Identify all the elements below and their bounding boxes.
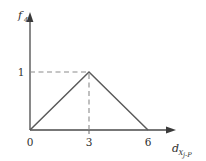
y-axis-title-subscript: 4 — [23, 16, 28, 24]
chart-figure: 0 3 6 1 f 4 d X j-P — [0, 0, 206, 161]
triangular-membership-function-chart: 0 3 6 1 f 4 d X j-P — [0, 0, 206, 161]
x-axis-title-subscript-index: j-P — [181, 151, 192, 159]
x-tick-label-0: 0 — [27, 136, 34, 148]
x-tick-label-3: 3 — [86, 136, 93, 148]
y-tick-label-1: 1 — [18, 66, 25, 78]
x-tick-label-6: 6 — [145, 136, 152, 148]
